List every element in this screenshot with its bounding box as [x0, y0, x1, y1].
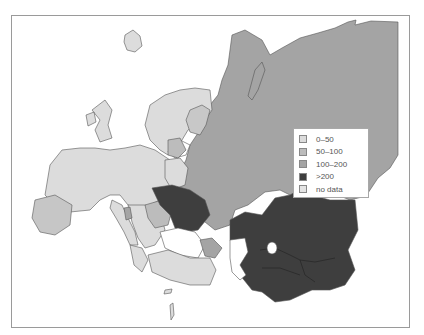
- legend-label: 100–200: [316, 160, 347, 169]
- swatch-icon: [299, 173, 307, 181]
- region-ireland: [86, 112, 96, 126]
- legend-item-50-100: 50–100: [299, 146, 363, 159]
- legend-item-100-200: 100–200: [299, 158, 363, 171]
- swatch-icon: [299, 160, 307, 168]
- legend-item-200-plus: >200: [299, 171, 363, 184]
- legend-label: >200: [316, 172, 334, 181]
- swatch-icon: [299, 135, 307, 143]
- legend-item-0-50: 0–50: [299, 133, 363, 146]
- legend-item-no-data: no data: [299, 183, 363, 196]
- aral-sea: [267, 242, 277, 254]
- legend-label: 50–100: [316, 147, 343, 156]
- region-caucasus: [200, 238, 222, 258]
- region-iceland: [124, 30, 142, 52]
- region-cyprus: [164, 289, 172, 294]
- map-legend: 0–50 50–100 100–200 >200 no data: [293, 128, 369, 198]
- swatch-icon: [299, 148, 307, 156]
- region-israel: [170, 303, 174, 320]
- swatch-icon: [299, 185, 307, 193]
- legend-label: no data: [316, 185, 343, 194]
- region-greece: [130, 245, 148, 272]
- region-central-asia: [230, 188, 358, 302]
- legend-label: 0–50: [316, 135, 334, 144]
